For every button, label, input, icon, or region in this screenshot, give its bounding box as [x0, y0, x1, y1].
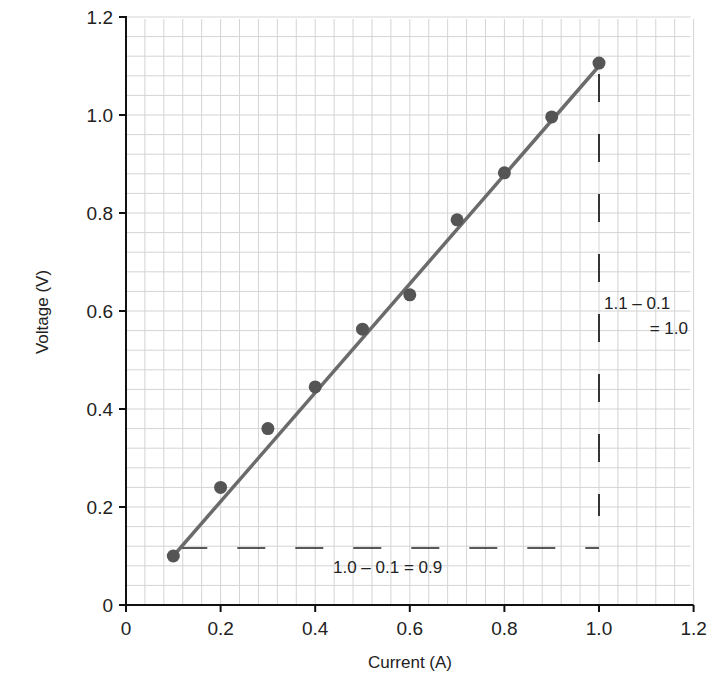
run-annotation: 1.0 – 0.1 = 0.9	[333, 558, 442, 577]
x-axis-title: Current (A)	[368, 653, 452, 672]
y-tick-label: 0.8	[87, 203, 113, 224]
y-tick-label: 1.2	[87, 7, 113, 28]
data-point	[593, 57, 606, 70]
y-tick-label: 0	[102, 595, 113, 616]
y-tick-label: 0.4	[87, 399, 114, 420]
data-point	[309, 380, 322, 393]
y-tick-label: 0.6	[87, 301, 113, 322]
data-point	[356, 323, 369, 336]
data-point	[403, 288, 416, 301]
voltage-current-chart: 00.20.40.60.81.01.200.20.40.60.81.01.2 C…	[0, 0, 715, 700]
data-point	[214, 481, 227, 494]
rise-annotation-line2: = 1.0	[650, 319, 688, 338]
y-tick-label: 1.0	[87, 105, 113, 126]
data-point	[451, 213, 464, 226]
y-tick-label: 0.2	[87, 497, 113, 518]
data-point	[545, 110, 558, 123]
y-axis-title: Voltage (V)	[33, 270, 52, 354]
data-point	[498, 166, 511, 179]
x-tick-label: 0.6	[397, 618, 423, 639]
data-point	[261, 422, 274, 435]
rise-annotation-line1: 1.1 – 0.1	[604, 294, 670, 313]
x-tick-label: 0.2	[207, 618, 233, 639]
x-tick-label: 1.0	[586, 618, 612, 639]
tick-labels: 00.20.40.60.81.01.200.20.40.60.81.01.2	[87, 7, 707, 639]
x-tick-label: 1.2	[680, 618, 706, 639]
x-tick-label: 0	[121, 618, 132, 639]
x-tick-label: 0.4	[302, 618, 329, 639]
x-tick-label: 0.8	[491, 618, 517, 639]
data-point	[167, 550, 180, 563]
